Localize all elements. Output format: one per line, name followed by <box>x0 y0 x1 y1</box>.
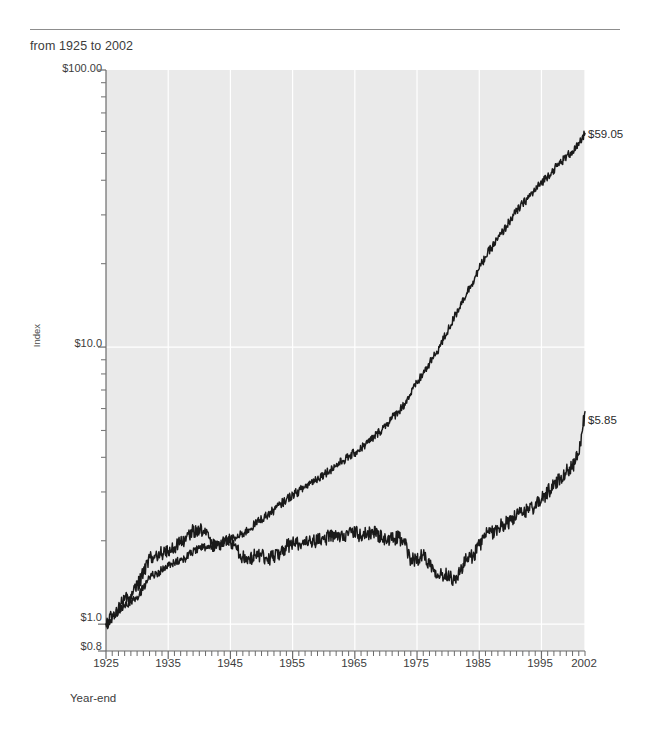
chart-figure: from 1925 to 2002 Index Year-end $100.00… <box>0 0 648 729</box>
plot-canvas <box>0 0 648 729</box>
